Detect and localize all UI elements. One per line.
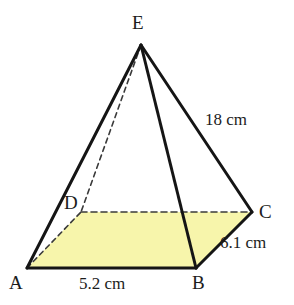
- vertex-label-b: B: [192, 273, 205, 292]
- edge-ed-dashed: [81, 45, 141, 212]
- pyramid-svg: [0, 0, 294, 305]
- measurement-label-ab: 5.2 cm: [79, 275, 125, 292]
- measurement-label-bc: 6.1 cm: [220, 234, 266, 251]
- vertex-label-d: D: [64, 193, 78, 212]
- vertex-label-a: A: [9, 273, 23, 292]
- base-face-fill: [27, 212, 252, 268]
- vertex-label-c: C: [259, 202, 272, 221]
- measurement-label-ec: 18 cm: [205, 111, 247, 128]
- pyramid-diagram: E D C A B 18 cm 6.1 cm 5.2 cm: [0, 0, 294, 305]
- vertex-label-e: E: [132, 13, 144, 32]
